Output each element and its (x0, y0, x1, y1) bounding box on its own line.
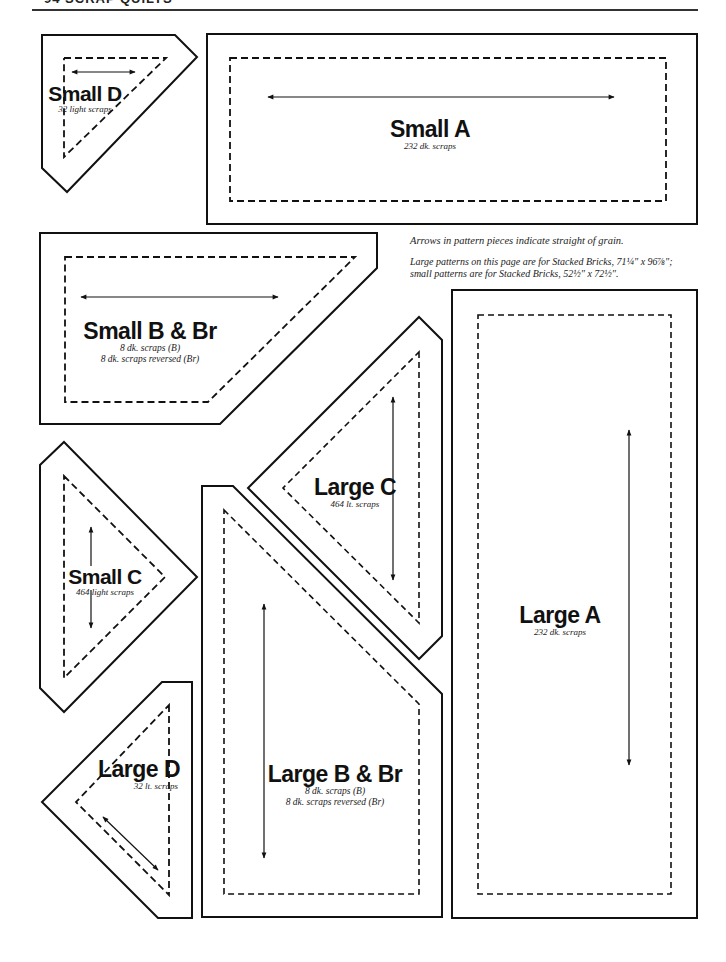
sizes-note-line2: small patterns are for Stacked Bricks, 5… (410, 268, 619, 280)
piece-quantity: 8 dk. scraps (B) (60, 344, 240, 354)
piece-quantity: 232 dk. scraps (360, 142, 500, 151)
piece-quantity: 232 dk. scraps (495, 628, 625, 637)
piece-quantity: 32 light scraps (20, 105, 150, 114)
grain-note: Arrows in pattern pieces indicate straig… (410, 235, 624, 248)
piece-name: Small B & Br (60, 320, 240, 343)
piece-quantity: 32 lt. scraps (84, 782, 194, 791)
large-d-grain-arrow (103, 817, 158, 870)
small-b-label: Small B & Br 8 dk. scraps (B) 8 dk. scra… (60, 320, 240, 364)
small-a-label: Small A 232 dk. scraps (360, 118, 500, 151)
large-c-label: Large C 464 lt. scraps (300, 476, 410, 509)
piece-name: Large D (84, 758, 194, 781)
large-b-seamline (224, 510, 419, 894)
small-d-label: Small D 32 light scraps (20, 83, 150, 114)
piece-name: Large B & Br (240, 763, 430, 786)
piece-quantity-reversed: 8 dk. scraps reversed (Br) (240, 798, 430, 808)
piece-quantity: 464 lt. scraps (300, 500, 410, 509)
large-b-cutline (202, 486, 442, 917)
piece-quantity-reversed: 8 dk. scraps reversed (Br) (60, 355, 240, 365)
small-c-label: Small C 464 light scraps (50, 566, 160, 597)
large-a-label: Large A 232 dk. scraps (495, 604, 625, 637)
piece-quantity: 8 dk. scraps (B) (240, 787, 430, 797)
piece-name: Small C (50, 566, 160, 587)
large-d-label: Large D 32 lt. scraps (84, 758, 194, 791)
large-b-label: Large B & Br 8 dk. scraps (B) 8 dk. scra… (240, 763, 430, 807)
piece-name: Small A (360, 118, 500, 141)
piece-name: Small D (20, 83, 150, 104)
piece-name: Large C (300, 476, 410, 499)
piece-name: Large A (495, 604, 625, 627)
sizes-note-line1: Large patterns on this page are for Stac… (410, 256, 673, 268)
piece-quantity: 464 light scraps (50, 588, 160, 597)
